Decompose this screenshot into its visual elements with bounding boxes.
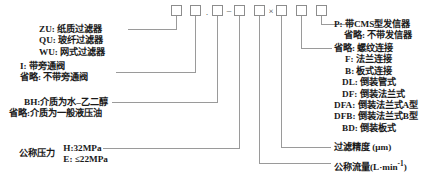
code-box-6[interactable] <box>276 5 287 16</box>
leader-line-medium-horizontal <box>112 102 218 103</box>
label-nominal-pressure-line-1: H:32MPa <box>63 143 108 154</box>
leader-line-accuracy-horizontal <box>281 147 331 148</box>
label-bypass-valve-line-1: I: 带旁通阀 <box>20 61 88 72</box>
label-filter-type-line-3: WU: 网式过滤器 <box>39 47 105 58</box>
label-nominal-pressure: 公称压力 H:32MPa E: ≤22MPa <box>19 143 108 166</box>
leader-line-filter-type-horizontal <box>128 29 177 30</box>
leader-line-connection-vertical <box>301 16 302 49</box>
label-connection-line-4: DL: 倒装管式 <box>334 77 418 88</box>
code-box-4[interactable] <box>234 5 245 16</box>
leader-line-filter-type-vertical <box>176 16 177 30</box>
label-filter-type-line-2: QU: 玻纤过滤器 <box>39 35 105 46</box>
leader-line-flow-vertical <box>259 16 260 164</box>
label-nominal-flow: 公称流量(L·min-1) <box>334 158 407 173</box>
label-filter-type-line-1: ZU: 纸质过滤器 <box>39 24 105 35</box>
label-connection-line-2: F: 法兰连接 <box>334 54 418 65</box>
label-transmitter-line-1: P: 带CMS型发信器 <box>334 19 412 30</box>
label-filtration-accuracy: 过滤精度 (μm) <box>334 142 391 153</box>
label-nominal-pressure-line-2: E: ≤22MPa <box>63 154 108 165</box>
label-medium-line-1: BH:介质为水–乙二醇 <box>9 97 108 108</box>
leader-line-pressure-vertical <box>239 16 240 149</box>
label-nominal-flow-main: 公称流量(L·min <box>334 162 398 172</box>
label-connection-line-8: BD: 倒装板式 <box>334 123 418 134</box>
code-box-7[interactable] <box>296 5 307 16</box>
leader-line-bypass-horizontal <box>116 72 196 73</box>
separator-times: × <box>267 6 275 17</box>
label-nominal-pressure-caption: 公称压力 <box>19 143 55 159</box>
leader-line-flow-horizontal <box>259 163 331 164</box>
label-medium-line-2: 省略:介质为一般液压油 <box>9 108 108 119</box>
label-connection-line-5: DF: 倒装法兰式 <box>334 89 418 100</box>
model-code-designation-diagram: · – × ZU: 纸质过滤器 QU: 玻纤过滤器 WU: 网式过滤器 I: 带… <box>0 0 439 174</box>
leader-line-accuracy-vertical <box>281 16 282 148</box>
leader-line-medium-vertical <box>217 16 218 103</box>
label-transmitter: P: 带CMS型发信器 省略: 不带发信器 <box>334 19 412 42</box>
code-box-5[interactable] <box>254 5 265 16</box>
label-nominal-flow-tail: ) <box>404 162 407 172</box>
label-connection-line-6: DFA: 倒装法兰式A型 <box>334 100 418 111</box>
leader-line-pressure-horizontal <box>103 148 240 149</box>
leader-line-connection-horizontal <box>301 48 332 49</box>
label-transmitter-line-2: 省略: 不带发信器 <box>334 30 412 41</box>
label-bypass-valve: I: 带旁通阀 省略: 不带旁通阀 <box>20 61 88 84</box>
label-connection-line-7: DFB: 倒装法兰式B型 <box>334 111 418 122</box>
label-bypass-valve-line-2: 省略: 不带旁通阀 <box>20 72 88 83</box>
label-connection-type: 省略: 螺纹连接 F: 法兰连接 B: 板式连接 DL: 倒装管式 DF: 倒装… <box>334 43 418 134</box>
code-box-3[interactable] <box>212 5 223 16</box>
label-connection-line-3: B: 板式连接 <box>334 66 418 77</box>
label-medium: BH:介质为水–乙二醇 省略:介质为一般液压油 <box>9 97 108 120</box>
code-box-2[interactable] <box>190 5 201 16</box>
label-connection-line-1: 省略: 螺纹连接 <box>334 43 418 54</box>
separator-dot: · <box>203 9 211 20</box>
label-filter-type: ZU: 纸质过滤器 QU: 玻纤过滤器 WU: 网式过滤器 <box>39 24 105 58</box>
separator-dash: – <box>225 5 233 16</box>
code-box-8[interactable] <box>316 5 327 16</box>
code-box-1[interactable] <box>171 5 182 16</box>
leader-line-bypass-vertical <box>195 16 196 73</box>
